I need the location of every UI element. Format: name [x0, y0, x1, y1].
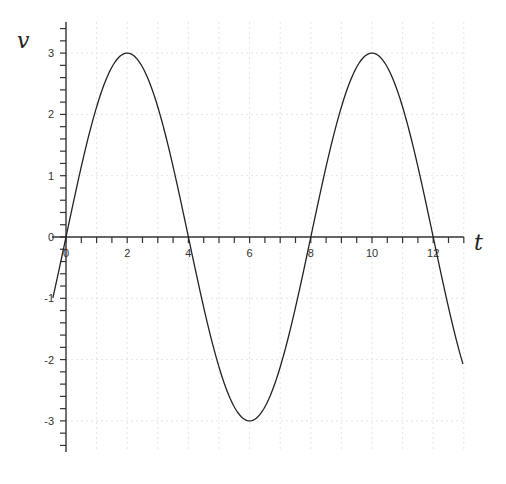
sine-wave-chart: 024681012-3-2-10123 t v: [0, 0, 506, 484]
y-tick-label: -2: [44, 354, 54, 366]
y-tick-label: -3: [44, 415, 54, 427]
x-axis-label: t: [474, 230, 483, 255]
y-tick-label: -1: [44, 292, 54, 304]
y-tick-label: 1: [48, 170, 54, 182]
y-axis-label: v: [17, 28, 30, 53]
x-tick-label: 2: [124, 247, 130, 259]
y-tick-label: 2: [48, 108, 54, 120]
x-tick-label: 6: [247, 247, 253, 259]
y-tick-label: 0: [48, 231, 54, 243]
x-tick-label: 10: [366, 247, 378, 259]
y-tick-label: 3: [48, 47, 54, 59]
